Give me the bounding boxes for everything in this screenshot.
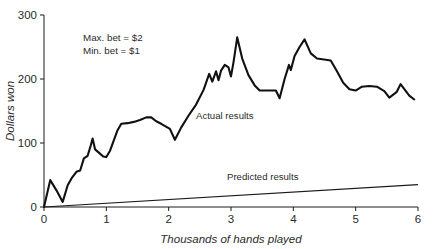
x-tick-label-5: 5 (352, 213, 358, 225)
chart-container: 01002003000123456 Actual resultsPredicte… (0, 0, 438, 249)
y-tick-label-200: 200 (18, 73, 37, 85)
x-tick-label-0: 0 (41, 213, 47, 225)
y-axis-title: Dollars won (4, 81, 16, 141)
chart-plot-area: 01002003000123456 Actual resultsPredicte… (0, 0, 438, 249)
annotation-line-1: Max. bet = $2 (83, 32, 143, 43)
annotation-line-2: Min. bet = $1 (83, 45, 140, 56)
x-tick-label-1: 1 (103, 213, 109, 225)
series-label-predicted-results: Predicted results (227, 171, 299, 182)
x-axis-title: Thousands of hands played (160, 233, 302, 245)
y-tick-label-0: 0 (31, 201, 37, 213)
chart-annotations: Max. bet = $2Min. bet = $1 (83, 32, 143, 56)
y-tick-label-100: 100 (18, 137, 37, 149)
y-tick-label-300: 300 (18, 9, 37, 21)
x-tick-label-2: 2 (165, 213, 171, 225)
x-tick-label-6: 6 (415, 213, 421, 225)
series-labels: Actual resultsPredicted results (196, 110, 299, 182)
series-line-predicted-results (44, 185, 418, 207)
series-label-actual-results: Actual results (196, 110, 254, 121)
axis-titles: Thousands of hands playedDollars won (4, 81, 302, 245)
x-tick-label-4: 4 (290, 213, 297, 225)
x-tick-label-3: 3 (228, 213, 234, 225)
